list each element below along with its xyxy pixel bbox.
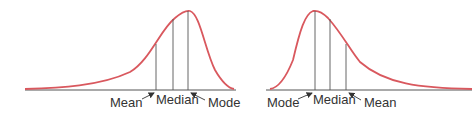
right-mode-arrow (298, 93, 312, 99)
left-mode-label: Mode (208, 95, 241, 110)
right-mode-label: Mode (267, 95, 300, 110)
left-mean-arrow (142, 93, 154, 99)
left-median-label: Median (156, 92, 199, 107)
right-skewed-distribution: Mode Median Mean (266, 11, 472, 110)
skewness-diagram: Mean Median Mode Mode Median Mean (0, 0, 472, 121)
left-curve (25, 11, 234, 89)
right-mean-label: Mean (364, 95, 397, 110)
left-skewed-distribution: Mean Median Mode (25, 11, 241, 110)
right-median-label: Median (313, 92, 356, 107)
right-curve (270, 11, 472, 89)
left-mean-label: Mean (110, 95, 143, 110)
